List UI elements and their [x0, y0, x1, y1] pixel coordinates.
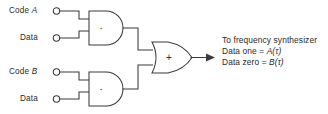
- input-label-code-b: Code B: [9, 67, 37, 76]
- input-label-data-1-text: Data: [20, 33, 38, 42]
- terminal-data-2-icon[interactable]: [53, 96, 59, 102]
- input-label-code-a-italic: A: [32, 6, 38, 15]
- output-arrow-icon: [206, 54, 215, 62]
- and-gate-bottom-body[interactable]: [89, 72, 123, 106]
- input-label-data-2: Data: [20, 94, 38, 103]
- wire-data-1-to-and-top: [60, 31, 89, 38]
- output-annotation-line-3-prefix: Data zero =: [222, 57, 269, 67]
- wire-code-b-to-and-bottom: [60, 72, 89, 80]
- input-label-code-a-text: Code: [9, 6, 29, 15]
- wire-data-2-to-and-bottom: [60, 92, 89, 99]
- wire-and-bottom-to-or: [123, 65, 153, 89]
- output-annotation-line-3: Data zero = B(τ): [222, 57, 317, 68]
- input-label-code-a: Code A: [9, 6, 37, 15]
- output-annotation-line-2-prefix: Data one =: [222, 46, 267, 56]
- output-annotation-line-1-prefix: To frequency synthesizer: [222, 35, 317, 45]
- and-gate-bottom-symbol: ·: [99, 83, 103, 95]
- circuit-diagram-canvas: · · + Code A Data Code B Data To frequen…: [0, 0, 328, 114]
- or-gate-body[interactable]: [152, 42, 192, 73]
- output-annotation-line-3-italic: B(τ): [269, 57, 284, 67]
- input-label-data-1: Data: [20, 33, 38, 42]
- output-annotation-line-2-italic: A(τ): [267, 46, 282, 56]
- wire-and-top-to-or: [123, 28, 153, 50]
- output-annotation-line-1: To frequency synthesizer: [222, 35, 317, 46]
- output-annotation-line-2: Data one = A(τ): [222, 46, 317, 57]
- and-gate-top-body[interactable]: [89, 11, 123, 45]
- output-annotation: To frequency synthesizer Data one = A(τ)…: [222, 35, 317, 68]
- or-gate-symbol: +: [166, 52, 172, 63]
- and-gate-top-symbol: ·: [99, 22, 103, 34]
- input-label-code-b-italic: B: [32, 67, 38, 76]
- terminal-data-1-icon[interactable]: [53, 35, 59, 41]
- terminal-code-a-icon[interactable]: [53, 8, 59, 14]
- terminal-code-b-icon[interactable]: [53, 69, 59, 75]
- wire-code-a-to-and-top: [60, 11, 89, 19]
- input-label-code-b-text: Code: [9, 67, 29, 76]
- input-label-data-2-text: Data: [20, 94, 38, 103]
